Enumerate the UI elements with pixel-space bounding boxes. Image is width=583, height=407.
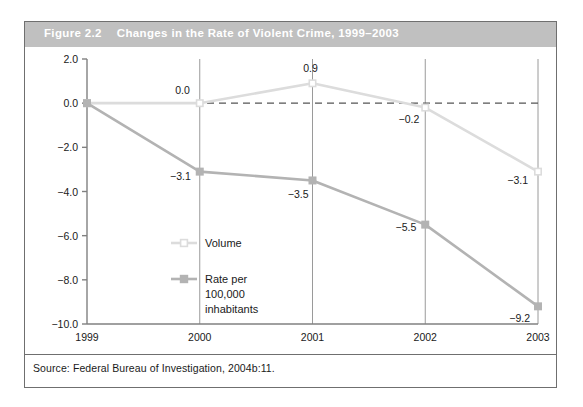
legend-label: Rate per: [205, 273, 248, 285]
x-tick-label: 2003: [526, 331, 550, 343]
y-tick-label: −10.0: [51, 318, 78, 330]
y-tick-label: −2.0: [57, 141, 78, 153]
data-point-label: −5.5: [396, 221, 417, 233]
y-tick-label: 0.0: [63, 97, 78, 109]
figure-title-bar: Figure 2.2Changes in the Rate of Violent…: [25, 22, 556, 47]
source-divider: [25, 354, 556, 355]
legend-swatch-marker: [181, 240, 188, 247]
y-tick-label: −4.0: [57, 186, 78, 198]
chart-gridlines: [200, 59, 538, 324]
data-point-marker: [197, 168, 203, 174]
figure-number: Figure 2.2: [44, 27, 102, 39]
data-point-marker: [422, 104, 428, 110]
x-tick-label: 2002: [414, 331, 438, 343]
figure-title-text: Changes in the Rate of Violent Crime, 19…: [117, 27, 399, 39]
data-point-label: 0.9: [303, 62, 318, 74]
data-point-marker: [309, 177, 315, 183]
y-tick-label: −8.0: [57, 274, 78, 286]
data-point-marker: [535, 303, 541, 309]
data-point-marker: [309, 80, 315, 86]
legend-label: 100,000: [205, 288, 245, 300]
legend-label: inhabitants: [205, 303, 259, 315]
data-point-label: −0.2: [399, 113, 420, 125]
line-chart: 2.00.0−2.0−4.0−6.0−8.0−10.0 199920002001…: [25, 47, 556, 354]
data-point-label: −9.2: [509, 312, 530, 324]
chart-data-labels: 0.00.9−0.2−3.1−3.1−3.5−5.5−9.2: [170, 62, 530, 324]
y-tick-label: −6.0: [57, 230, 78, 242]
figure-title: Figure 2.2Changes in the Rate of Violent…: [44, 27, 399, 39]
data-point-marker: [84, 100, 90, 106]
data-point-label: −3.5: [288, 188, 309, 200]
chart-legend: VolumeRate per100,000inhabitants: [171, 237, 259, 315]
source-note: Source: Federal Bureau of Investigation,…: [33, 362, 275, 374]
x-tick-label: 1999: [75, 331, 99, 343]
x-axis-tick-labels: 19992000200120022003: [75, 331, 550, 343]
chart-plot-area: 2.00.0−2.0−4.0−6.0−8.0−10.0 199920002001…: [25, 47, 556, 354]
data-point-label: −3.1: [507, 174, 528, 186]
data-point-marker: [535, 168, 541, 174]
legend-swatch-marker: [181, 276, 188, 283]
data-point-marker: [422, 221, 428, 227]
y-axis-tick-labels: 2.00.0−2.0−4.0−6.0−8.0−10.0: [51, 53, 87, 330]
data-point-marker: [197, 100, 203, 106]
x-tick-label: 2000: [188, 331, 212, 343]
data-point-label: 0.0: [175, 84, 190, 96]
figure-panel: Figure 2.2Changes in the Rate of Violent…: [24, 21, 557, 388]
x-tick-label: 2001: [301, 331, 325, 343]
y-tick-label: 2.0: [63, 53, 78, 65]
data-point-label: −3.1: [170, 170, 191, 182]
legend-label: Volume: [205, 237, 242, 249]
